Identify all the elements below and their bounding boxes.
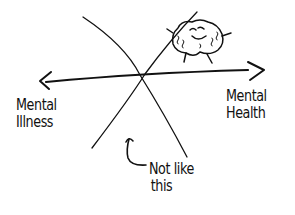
arrow-right-icon xyxy=(248,62,264,80)
label-line: Illness xyxy=(16,114,57,131)
diagram-canvas: Mental Illness Mental Health Not like th… xyxy=(0,0,295,215)
curved-arrow-up-icon xyxy=(126,139,146,165)
arrow-left-icon xyxy=(40,72,51,89)
annotation-line: Not like xyxy=(149,161,194,178)
label-line: Health xyxy=(226,105,267,122)
label-line: Mental xyxy=(226,88,267,105)
smiling-brain-icon xyxy=(167,20,231,63)
not-like-this-annotation: Not like this xyxy=(149,161,194,195)
annotation-line: this xyxy=(149,178,194,195)
mental-health-label: Mental Health xyxy=(226,88,267,122)
crossing-line-descending xyxy=(83,17,187,157)
mental-illness-label: Mental Illness xyxy=(16,97,57,131)
crossing-line-ascending xyxy=(92,12,197,148)
label-line: Mental xyxy=(16,97,57,114)
